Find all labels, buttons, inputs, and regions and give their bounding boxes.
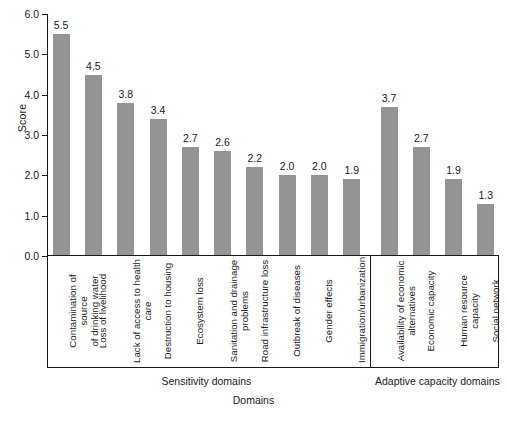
category-label: Sanitation and drainage problems bbox=[228, 259, 250, 363]
bar-value-label: 1.9 bbox=[332, 164, 372, 176]
bar bbox=[279, 175, 296, 256]
group-label: Sensitivity domains bbox=[116, 375, 296, 387]
category-label: Destruction to housing bbox=[162, 259, 173, 363]
category-label: Economic capacity bbox=[425, 259, 436, 363]
bar bbox=[381, 107, 398, 256]
x-axis-title: Domains bbox=[0, 394, 507, 406]
bar bbox=[246, 167, 263, 256]
y-tick-label: 2.0 bbox=[8, 169, 39, 181]
bar bbox=[53, 34, 70, 256]
category-label: Loss of livelihood bbox=[97, 259, 108, 363]
bar bbox=[311, 175, 328, 256]
bar-value-label: 2.6 bbox=[203, 136, 243, 148]
y-tick-label: 6.0 bbox=[8, 8, 39, 20]
bar-value-label: 2.7 bbox=[401, 132, 441, 144]
bar-value-label: 3.8 bbox=[106, 88, 146, 100]
category-label: Lack of access to health care bbox=[131, 259, 153, 363]
bar bbox=[85, 75, 102, 257]
category-label: Ecosystem loss bbox=[194, 259, 205, 363]
bar bbox=[117, 103, 134, 256]
y-tick-label: 0.0 bbox=[8, 250, 39, 262]
bar-value-label: 5.5 bbox=[41, 19, 81, 31]
y-tick-label: 4.0 bbox=[8, 89, 39, 101]
bar-chart-figure: Score 0.01.02.03.04.05.06.0 Contaminatio… bbox=[0, 0, 507, 422]
bar-value-label: 4.5 bbox=[73, 60, 113, 72]
bar bbox=[150, 119, 167, 256]
category-label: Contamination of source of drinking wate… bbox=[67, 259, 100, 363]
bar-value-label: 3.4 bbox=[138, 104, 178, 116]
bar-value-label: 1.3 bbox=[466, 189, 506, 201]
group-label: Adaptive capacity domains bbox=[347, 375, 507, 387]
bar bbox=[343, 179, 360, 256]
bar bbox=[214, 151, 231, 256]
category-label: Human resource capacity bbox=[458, 259, 480, 363]
y-tick-label: 1.0 bbox=[8, 210, 39, 222]
bar bbox=[182, 147, 199, 256]
category-label: Immigration/urbanization bbox=[356, 259, 367, 363]
bar bbox=[445, 179, 462, 256]
category-label: Gender effects bbox=[323, 259, 334, 363]
bar bbox=[477, 204, 494, 256]
category-label: Road infrastructure loss bbox=[259, 259, 270, 363]
bar bbox=[413, 147, 430, 256]
y-tick-label: 3.0 bbox=[8, 129, 39, 141]
category-label: Social network bbox=[490, 259, 501, 363]
category-label: Availability of economic alternatives bbox=[395, 259, 417, 363]
bar-value-label: 3.7 bbox=[369, 92, 409, 104]
group-separator-line bbox=[370, 256, 371, 368]
category-label: Outbreak of diseases bbox=[291, 259, 302, 363]
bar-value-label: 1.9 bbox=[434, 164, 474, 176]
y-tick-label: 5.0 bbox=[8, 48, 39, 60]
